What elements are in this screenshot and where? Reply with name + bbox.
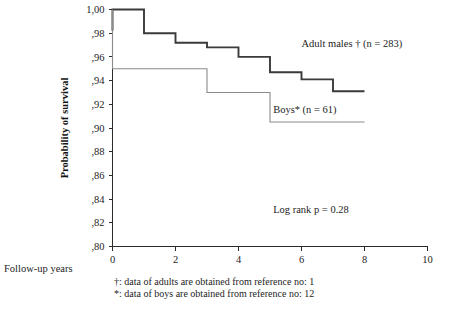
y-tick-label: 1,00 — [86, 4, 104, 15]
y-axis-title: Probability of survival — [59, 78, 70, 179]
x-tick-label: 0 — [110, 254, 115, 265]
y-tick-label: ,84 — [91, 194, 105, 205]
x-tick-label: 8 — [362, 254, 367, 265]
x-tick-label: 6 — [299, 254, 304, 265]
y-tick-label: ,94 — [91, 75, 105, 86]
y-tick-label: ,96 — [91, 52, 104, 63]
boys-label: Boys* (n = 61) — [273, 104, 337, 116]
footnotes-group: †: data of adults are obtained from refe… — [114, 276, 314, 299]
y-tick-label: ,82 — [91, 217, 104, 228]
x-axis-ticks: 0246810 — [110, 247, 433, 265]
survival-chart-figure: ,80,82,84,86,88,90,92,94,96,981,00 02468… — [0, 0, 453, 314]
x-axis-caption: Follow-up years — [4, 263, 73, 274]
chart-canvas: ,80,82,84,86,88,90,92,94,96,981,00 02468… — [0, 0, 453, 314]
footnote-line-1: †: data of adults are obtained from refe… — [114, 276, 314, 287]
x-tick-label: 2 — [173, 254, 178, 265]
x-tick-label: 10 — [422, 254, 433, 265]
y-tick-label: ,90 — [91, 123, 104, 134]
y-axis-ticks: ,80,82,84,86,88,90,92,94,96,981,00 — [86, 4, 112, 252]
y-tick-label: ,80 — [91, 241, 104, 252]
adult-males-label: Adult males † (n = 283) — [302, 38, 403, 50]
footnote-line-2: *: data of boys are obtained from refere… — [114, 288, 314, 299]
series-line-adult-males — [113, 10, 365, 92]
annotations-group: Adult males † (n = 283)Boys* (n = 61)Log… — [273, 38, 403, 215]
log-rank-label: Log rank p = 0.28 — [273, 204, 349, 215]
y-tick-label: ,88 — [91, 146, 104, 157]
x-tick-label: 4 — [236, 254, 242, 265]
y-tick-label: ,98 — [91, 28, 104, 39]
y-tick-label: ,92 — [91, 99, 104, 110]
y-tick-label: ,86 — [91, 170, 104, 181]
